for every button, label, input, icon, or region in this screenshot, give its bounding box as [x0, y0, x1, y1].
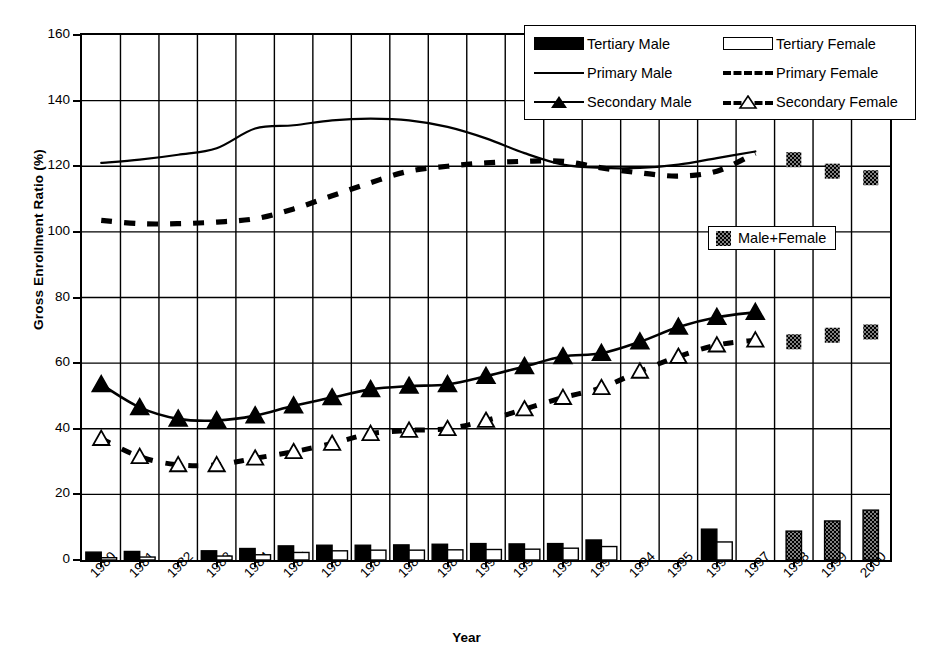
male-female-legend: Male+Female [708, 226, 836, 250]
y-tick-mark [73, 428, 80, 430]
chart-figure: Gross Enrollment Ratio (%) Year 02040608… [0, 0, 933, 656]
y-tick-label: 40 [26, 420, 70, 435]
legend-label: Primary Female [776, 65, 878, 81]
y-tick-label: 160 [26, 26, 70, 41]
legend-item-tertiary-male: Tertiary Male [531, 34, 720, 54]
legend-label: Primary Male [587, 65, 672, 81]
y-tick-mark [73, 559, 80, 561]
solid-line-filled-triangle-icon [531, 92, 587, 112]
legend-row: Secondary Male Secondary Female [531, 87, 909, 116]
y-tick-mark [73, 297, 80, 299]
legend-label: Tertiary Male [587, 36, 670, 52]
legend-label: Secondary Male [587, 94, 692, 110]
x-axis-title: Year [0, 630, 933, 645]
legend-item-primary-female: Primary Female [720, 63, 909, 83]
solid-line-icon [531, 63, 587, 83]
y-tick-mark [73, 165, 80, 167]
y-tick-label: 60 [26, 354, 70, 369]
legend-label: Tertiary Female [776, 36, 876, 52]
y-tick-label: 100 [26, 223, 70, 238]
y-tick-mark [73, 34, 80, 36]
y-tick-mark [73, 493, 80, 495]
legend-item-secondary-male: Secondary Male [531, 92, 720, 112]
legend-row: Tertiary Male Tertiary Female [531, 29, 909, 58]
legend-item-tertiary-female: Tertiary Female [720, 34, 909, 54]
open-white-box-icon [720, 34, 776, 54]
y-tick-mark [73, 362, 80, 364]
y-tick-label: 140 [26, 92, 70, 107]
y-tick-label: 0 [26, 551, 70, 566]
hatched-gray-box-icon [716, 231, 731, 246]
legend-row: Primary Male Primary Female [531, 58, 909, 87]
legend-item-primary-male: Primary Male [531, 63, 720, 83]
dashed-line-open-triangle-icon [720, 92, 776, 112]
legend-label: Secondary Female [776, 94, 898, 110]
y-tick-label: 20 [26, 485, 70, 500]
y-tick-mark [73, 231, 80, 233]
y-tick-label: 120 [26, 157, 70, 172]
chart-legend: Tertiary Male Tertiary Female Primary Ma… [524, 25, 916, 120]
solid-black-box-icon [531, 34, 587, 54]
legend-label: Male+Female [738, 230, 826, 246]
y-axis-title: Gross Enrollment Ratio (%) [31, 110, 46, 370]
y-tick-label: 80 [26, 289, 70, 304]
legend-item-secondary-female: Secondary Female [720, 92, 909, 112]
y-tick-mark [73, 100, 80, 102]
dashed-line-icon [720, 63, 776, 83]
